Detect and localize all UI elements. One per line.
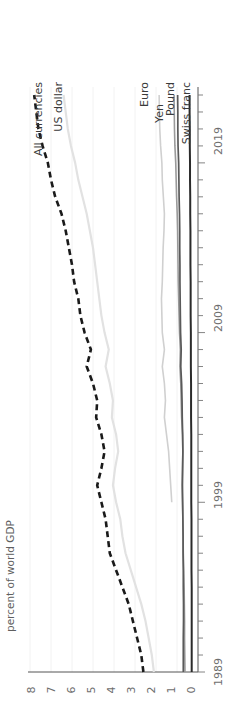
- series-line-swiss-franc: [190, 95, 192, 672]
- series-labels-group: All currencies US dollar Euro Yen Pound …: [32, 82, 193, 157]
- xtick-label-1999: 1999: [212, 481, 225, 509]
- ytick-label-8: 8: [25, 687, 38, 694]
- ytick-label-0: 0: [185, 687, 198, 694]
- xtick-label-1989: 1989: [212, 658, 225, 686]
- series-line-us-dollar: [64, 95, 154, 672]
- tickmarks-group: [198, 95, 205, 672]
- line-chart: 8 7 6 5 4 3 2 1 0 1989 1999 2009 2019 pe…: [0, 0, 241, 706]
- series-label-euro: Euro: [138, 82, 151, 107]
- y-axis-title: percent of world GDP: [4, 520, 16, 632]
- series-line-euro: [159, 95, 172, 502]
- axes-group: [28, 87, 198, 672]
- ytick-label-1: 1: [165, 687, 178, 694]
- ytick-label-5: 5: [85, 687, 98, 694]
- x-axis-tick-labels: 1989 1999 2009 2019: [212, 127, 225, 686]
- ytick-label-6: 6: [65, 687, 78, 694]
- series-group: [34, 95, 192, 672]
- y-axis-tick-labels: 8 7 6 5 4 3 2 1 0: [25, 687, 198, 694]
- chart-container: 8 7 6 5 4 3 2 1 0 1989 1999 2009 2019 pe…: [0, 0, 241, 706]
- ytick-label-2: 2: [145, 687, 158, 694]
- series-label-all-currencies: All currencies: [32, 82, 45, 156]
- gridlines-group: [30, 87, 177, 672]
- ytick-label-3: 3: [125, 687, 138, 694]
- series-label-us-dollar: US dollar: [52, 82, 65, 132]
- xtick-label-2009: 2009: [212, 304, 225, 332]
- xtick-label-2019: 2019: [212, 127, 225, 155]
- series-label-swiss-franc: Swiss franc: [180, 82, 193, 144]
- ytick-label-7: 7: [45, 687, 58, 694]
- series-label-pound: Pound: [164, 82, 177, 116]
- ytick-label-4: 4: [105, 687, 118, 694]
